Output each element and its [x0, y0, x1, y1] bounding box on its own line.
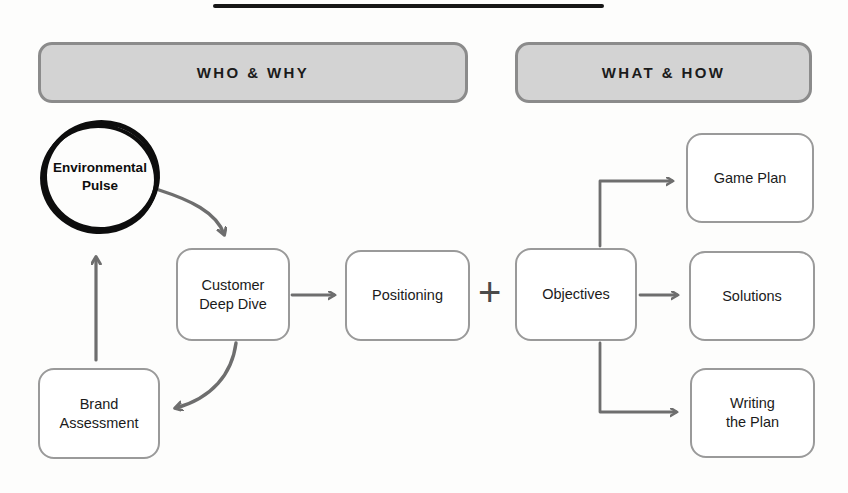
- node-customer-deep-dive-line1: Customer: [202, 277, 265, 293]
- node-environmental-pulse-line2: Pulse: [82, 178, 118, 193]
- node-writing-the-plan-line2: the Plan: [726, 414, 779, 430]
- node-objectives[interactable]: Objectives: [515, 248, 637, 341]
- node-objectives-label: Objectives: [536, 285, 616, 304]
- node-solutions-line1: Solutions: [722, 288, 782, 304]
- node-brand-assessment[interactable]: BrandAssessment: [38, 368, 160, 459]
- top-rule-divider: [213, 4, 604, 8]
- connector-customer-to-brand: [176, 343, 236, 408]
- node-customer-deep-dive[interactable]: CustomerDeep Dive: [176, 248, 290, 341]
- node-writing-the-plan-label: Writingthe Plan: [720, 394, 785, 431]
- phase-bar-what-how[interactable]: WHAT & HOW: [515, 42, 812, 103]
- node-brand-assessment-line2: Assessment: [60, 415, 139, 431]
- node-customer-deep-dive-line2: Deep Dive: [199, 296, 267, 312]
- node-environmental-pulse-line1: Environmental: [53, 160, 147, 175]
- node-positioning[interactable]: Positioning: [345, 250, 470, 341]
- node-game-plan-line1: Game Plan: [714, 170, 787, 186]
- connector-objectives-to-writing: [600, 343, 676, 412]
- node-environmental-pulse[interactable]: Environmental Pulse: [40, 120, 160, 234]
- node-game-plan[interactable]: Game Plan: [686, 133, 814, 223]
- phase-bar-who-why[interactable]: WHO & WHY: [38, 42, 468, 103]
- node-positioning-line1: Positioning: [372, 287, 443, 303]
- node-brand-assessment-label: BrandAssessment: [54, 395, 145, 432]
- node-environmental-pulse-label: Environmental Pulse: [50, 159, 150, 194]
- connector-objectives-to-gameplan: [600, 181, 672, 246]
- node-customer-deep-dive-label: CustomerDeep Dive: [193, 276, 273, 313]
- node-brand-assessment-line1: Brand: [80, 396, 119, 412]
- node-objectives-line1: Objectives: [542, 286, 610, 302]
- phase-bar-who-why-label: WHO & WHY: [197, 64, 309, 81]
- plus-connector-glyph: +: [478, 272, 501, 312]
- node-positioning-label: Positioning: [366, 286, 449, 305]
- node-solutions-label: Solutions: [716, 287, 788, 306]
- phase-bar-what-how-label: WHAT & HOW: [602, 64, 726, 81]
- node-solutions[interactable]: Solutions: [689, 251, 815, 341]
- diagram-canvas: WHO & WHY WHAT & HOW Environmental Pulse…: [0, 0, 848, 493]
- node-writing-the-plan-line1: Writing: [730, 395, 775, 411]
- connector-pulse-to-customer: [159, 190, 224, 234]
- node-game-plan-label: Game Plan: [708, 169, 793, 188]
- node-writing-the-plan[interactable]: Writingthe Plan: [690, 368, 815, 458]
